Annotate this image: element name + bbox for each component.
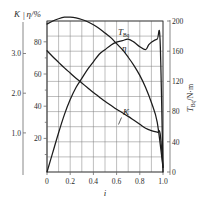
x-tick-0: 0 (45, 177, 49, 186)
eta-tick-40: 40 (34, 102, 42, 111)
k-axis-title: K (13, 9, 21, 19)
torque-tick-0: 0 (172, 168, 176, 177)
eta-tick-80: 80 (34, 38, 42, 47)
curve-label-torque-sub: Bq (123, 32, 130, 38)
torque-axis-title-unit: /N·m (186, 83, 195, 101)
chart-figure: 80 60 40 20 3.0 2.0 1.0 K | η/% (0, 0, 201, 204)
x-tick-06: 0.6 (112, 177, 122, 186)
x-tick-02: 0.2 (65, 177, 75, 186)
x-tick-10: 1.0 (158, 177, 168, 186)
torque-tick-160: 160 (172, 47, 184, 56)
torque-converter-chart: 80 60 40 20 3.0 2.0 1.0 K | η/% (0, 0, 201, 204)
torque-tick-200: 200 (172, 17, 184, 26)
chart-background (0, 0, 201, 204)
x-tick-04: 0.4 (89, 177, 99, 186)
torque-axis-title: TBq/N·m (185, 83, 196, 112)
eta-tick-20: 20 (34, 134, 42, 143)
svg-text:TBq/N·m: TBq/N·m (185, 83, 196, 112)
k-tick-1: 1.0 (12, 129, 22, 138)
torque-tick-80: 80 (172, 107, 180, 116)
axis-title-separator: | (23, 10, 25, 20)
eta-tick-60: 60 (34, 70, 42, 79)
curve-label-k: K (122, 107, 130, 117)
eta-axis-title: η/% (27, 9, 41, 19)
k-tick-2: 2.0 (12, 89, 22, 98)
k-tick-3: 3.0 (12, 49, 22, 58)
curve-label-efficiency: η (122, 43, 127, 53)
torque-tick-40: 40 (172, 138, 180, 147)
x-tick-08: 0.8 (135, 177, 145, 186)
left-axis-titles: K | η/% (13, 9, 41, 20)
torque-tick-120: 120 (172, 77, 184, 86)
